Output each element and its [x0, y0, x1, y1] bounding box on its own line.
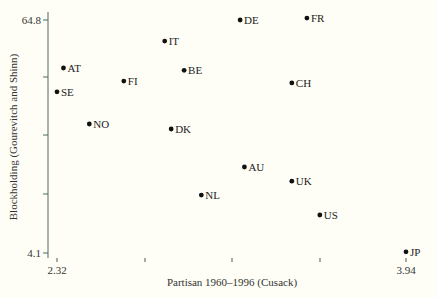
data-point-jp: JP: [404, 246, 421, 258]
scatter-chart: 64.84.1 2.323.94 DEFRITATBEFICHSENODKAUU…: [0, 0, 437, 298]
data-point-ch: CH: [289, 77, 311, 89]
point-label: AU: [248, 161, 264, 173]
point-label: JP: [410, 246, 420, 258]
point-marker: [199, 193, 204, 198]
x-axis-title: Partisan 1960–1996 (Cusack): [167, 276, 297, 289]
data-point-dk: DK: [169, 123, 191, 135]
data-point-it: IT: [162, 35, 179, 47]
point-marker: [121, 79, 126, 84]
point-label: UK: [296, 175, 312, 187]
data-point-au: AU: [242, 161, 264, 173]
point-marker: [289, 179, 294, 184]
data-point-at: AT: [61, 62, 81, 74]
point-label: DE: [244, 14, 259, 26]
y-axis-title: Blockholding (Gourevitch and Shinn): [7, 53, 20, 220]
data-points: DEFRITATBEFICHSENODKAUUKNLUSJP: [55, 12, 421, 258]
point-label: NO: [93, 118, 109, 130]
point-marker: [162, 39, 167, 44]
point-label: FR: [311, 12, 325, 24]
point-label: US: [324, 209, 338, 221]
point-label: DK: [175, 123, 191, 135]
y-axis: 64.84.1: [22, 12, 48, 259]
data-point-uk: UK: [289, 175, 311, 187]
x-axis: 2.323.94: [47, 258, 418, 276]
data-point-fr: FR: [305, 12, 326, 24]
point-label: AT: [67, 62, 81, 74]
y-tick-label-max: 64.8: [22, 14, 42, 26]
point-marker: [87, 122, 92, 127]
point-marker: [305, 16, 310, 21]
point-marker: [238, 18, 243, 23]
data-point-de: DE: [238, 14, 259, 26]
data-point-nl: NL: [199, 189, 220, 201]
point-marker: [317, 213, 322, 218]
data-point-fi: FI: [121, 75, 138, 87]
y-tick-label-min: 4.1: [27, 247, 41, 259]
point-marker: [404, 249, 409, 254]
x-tick-label-max: 3.94: [396, 264, 416, 276]
point-label: NL: [205, 189, 220, 201]
point-label: SE: [61, 86, 74, 98]
point-label: IT: [169, 35, 180, 47]
data-point-no: NO: [87, 118, 109, 130]
data-point-us: US: [317, 209, 337, 221]
point-marker: [242, 165, 247, 170]
point-marker: [61, 66, 66, 71]
point-label: BE: [188, 64, 202, 76]
data-point-se: SE: [55, 86, 75, 98]
x-tick-label-min: 2.32: [47, 264, 66, 276]
data-point-be: BE: [182, 64, 203, 76]
point-marker: [169, 127, 174, 132]
point-label: FI: [128, 75, 138, 87]
point-marker: [289, 81, 294, 86]
point-label: CH: [296, 77, 311, 89]
point-marker: [55, 89, 60, 94]
point-marker: [182, 68, 187, 73]
